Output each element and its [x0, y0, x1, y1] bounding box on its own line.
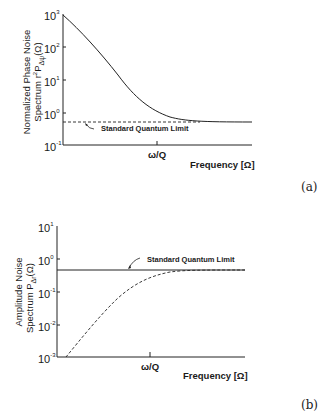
x-axis-label-a: Frequency [Ω] [190, 159, 255, 170]
y-axis-label-b: Amplitude Noise [13, 257, 24, 326]
panel-label-a: (a) [301, 180, 318, 194]
y-tick-label: 103 [44, 9, 60, 22]
x-axis-label-b: Frequency [Ω] [183, 370, 248, 381]
y-tick-label: 10-3 [38, 352, 56, 365]
sql-annotation-b: Standard Quantum Limit [147, 255, 235, 264]
panel-b: 101 100 10-1 10-2 10-3 Amplitude Noise S… [13, 221, 318, 412]
panel-a: 103 102 101 100 10-1 Normalized Phase No… [21, 9, 318, 194]
x-tick-label-a: ω/Q [148, 149, 166, 160]
y-tick-label: 10-2 [38, 320, 56, 333]
panel-label-b: (b) [301, 398, 318, 412]
y-tick-label: 10-1 [38, 287, 56, 300]
y-axis-label-a: Normalized Phase Noise [21, 30, 32, 135]
phase-noise-curve [63, 15, 252, 122]
y-tick-label: 101 [38, 221, 54, 234]
y-tick-label: 10-1 [44, 140, 62, 153]
y-axis-label-b-line2: Spectrum PΔr(Ω) [24, 263, 37, 333]
figure: 103 102 101 100 10-1 Normalized Phase No… [0, 0, 332, 420]
y-tick-label: 101 [44, 75, 60, 88]
sql-annotation-a: Standard Quantum Limit [101, 124, 189, 133]
y-tick-label: 102 [44, 42, 60, 55]
y-tick-label: 100 [38, 254, 54, 267]
amplitude-noise-curve [66, 270, 245, 357]
x-tick-label-b: ω/Q [141, 361, 159, 372]
y-tick-label: 100 [44, 108, 60, 121]
